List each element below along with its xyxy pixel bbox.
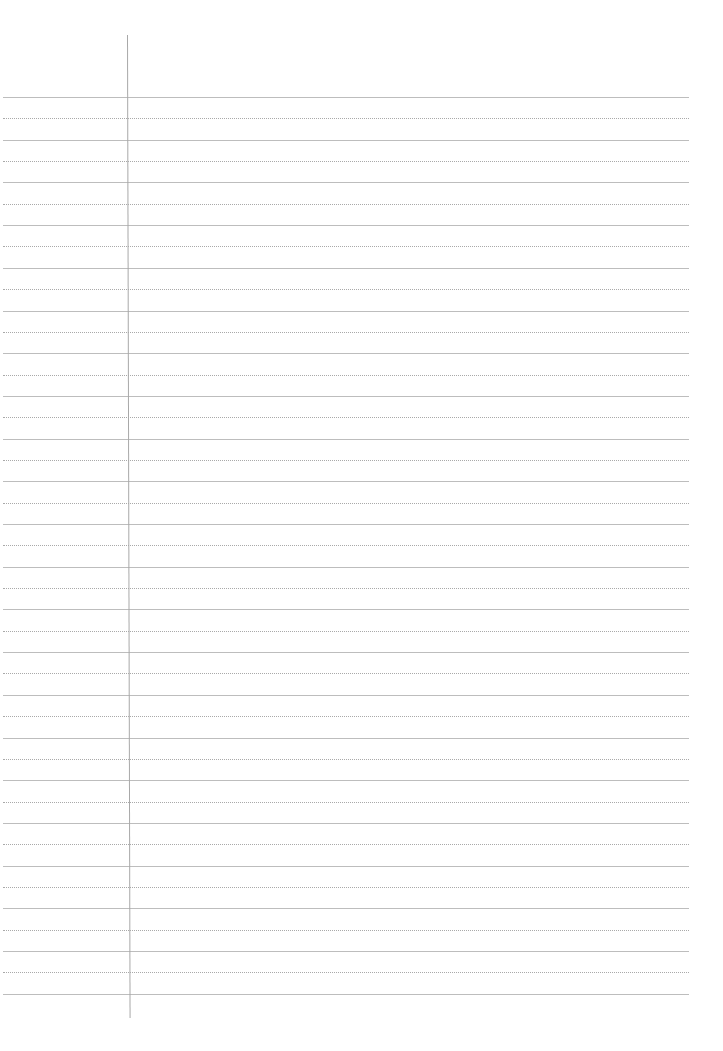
solid-rule-line — [3, 866, 689, 867]
solid-rule-line — [3, 823, 689, 824]
dotted-rule-line — [3, 460, 689, 461]
solid-rule-line — [3, 140, 689, 141]
dotted-rule-line — [3, 503, 689, 504]
solid-rule-line — [3, 225, 689, 226]
solid-rule-line — [3, 609, 689, 610]
dotted-rule-line — [3, 161, 689, 162]
dotted-rule-line — [3, 673, 689, 674]
dotted-rule-line — [3, 545, 689, 546]
dotted-rule-line — [3, 887, 689, 888]
dotted-rule-line — [3, 289, 689, 290]
dotted-rule-line — [3, 246, 689, 247]
dotted-rule-line — [3, 716, 689, 717]
dotted-rule-line — [3, 417, 689, 418]
lined-paper-page — [0, 0, 723, 1051]
dotted-rule-line — [3, 972, 689, 973]
dotted-rule-line — [3, 759, 689, 760]
solid-rule-line — [3, 353, 689, 354]
solid-rule-line — [3, 396, 689, 397]
dotted-rule-line — [3, 802, 689, 803]
dotted-rule-line — [3, 332, 689, 333]
dotted-rule-line — [3, 588, 689, 589]
dotted-rule-line — [3, 844, 689, 845]
solid-rule-line — [3, 994, 689, 995]
solid-rule-line — [3, 738, 689, 739]
dotted-rule-line — [3, 375, 689, 376]
solid-rule-line — [3, 97, 689, 98]
solid-rule-line — [3, 268, 689, 269]
dotted-rule-line — [3, 204, 689, 205]
dotted-rule-line — [3, 118, 689, 119]
solid-rule-line — [3, 311, 689, 312]
solid-rule-line — [3, 695, 689, 696]
solid-rule-line — [3, 567, 689, 568]
dotted-rule-line — [3, 631, 689, 632]
solid-rule-line — [3, 652, 689, 653]
solid-rule-line — [3, 439, 689, 440]
solid-rule-line — [3, 524, 689, 525]
solid-rule-line — [3, 481, 689, 482]
dotted-rule-line — [3, 930, 689, 931]
solid-rule-line — [3, 908, 689, 909]
solid-rule-line — [3, 780, 689, 781]
solid-rule-line — [3, 951, 689, 952]
solid-rule-line — [3, 182, 689, 183]
